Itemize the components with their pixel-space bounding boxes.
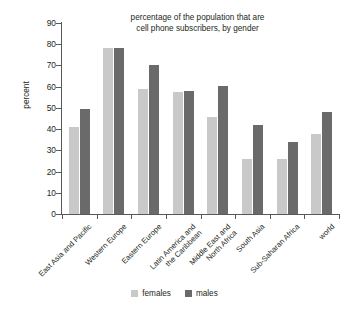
y-axis-tick-label: 30 bbox=[10, 145, 56, 155]
y-axis-tick bbox=[56, 214, 61, 215]
y-axis-tick bbox=[56, 65, 61, 66]
y-axis-tick-label: 90 bbox=[10, 18, 56, 28]
y-axis-tick-label: 70 bbox=[10, 60, 56, 70]
bar-females-7 bbox=[311, 134, 321, 214]
chart-legend: females males bbox=[0, 289, 349, 298]
y-axis-tick-label: 60 bbox=[10, 82, 56, 92]
x-axis-tick bbox=[62, 215, 63, 219]
bar-females-0 bbox=[69, 127, 79, 214]
x-axis-tick bbox=[304, 215, 305, 219]
bar-males-6 bbox=[288, 142, 298, 214]
legend-swatch-males-icon bbox=[185, 290, 192, 297]
legend-item-males[interactable]: males bbox=[185, 289, 218, 298]
bar-females-6 bbox=[277, 159, 287, 214]
y-axis-tick bbox=[56, 172, 61, 173]
y-axis-tick bbox=[56, 87, 61, 88]
x-axis-tick bbox=[235, 215, 236, 219]
bar-females-5 bbox=[242, 159, 252, 214]
bar-females-3 bbox=[173, 92, 183, 214]
bar-males-7 bbox=[322, 112, 332, 214]
plot-area bbox=[62, 23, 339, 214]
bar-males-4 bbox=[218, 86, 228, 214]
y-axis-tick-label: 10 bbox=[10, 188, 56, 198]
x-axis-tick bbox=[201, 215, 202, 219]
x-axis-tick bbox=[270, 215, 271, 219]
bar-females-4 bbox=[207, 117, 217, 214]
y-axis-tick-label: 50 bbox=[10, 103, 56, 113]
x-axis-tick bbox=[97, 215, 98, 219]
y-axis-tick bbox=[56, 44, 61, 45]
y-axis-tick-label: 40 bbox=[10, 124, 56, 134]
x-axis-tick bbox=[339, 215, 340, 219]
y-axis-tick bbox=[56, 129, 61, 130]
y-axis-tick-label: 0 bbox=[10, 209, 56, 219]
y-axis-tick-label: 80 bbox=[10, 39, 56, 49]
y-axis-tick-label: 20 bbox=[10, 167, 56, 177]
bar-females-2 bbox=[138, 89, 148, 214]
bar-males-1 bbox=[114, 48, 124, 214]
bar-chart: percentage of the population that are ce… bbox=[0, 0, 349, 311]
x-axis-tick bbox=[166, 215, 167, 219]
bar-males-2 bbox=[149, 65, 159, 214]
y-axis-tick bbox=[56, 23, 61, 24]
y-axis-tick bbox=[56, 150, 61, 151]
legend-item-females[interactable]: females bbox=[131, 289, 171, 298]
x-axis-tick bbox=[131, 215, 132, 219]
bar-males-0 bbox=[80, 109, 90, 214]
y-axis-tick bbox=[56, 108, 61, 109]
legend-label-females: females bbox=[142, 289, 171, 298]
legend-swatch-females-icon bbox=[131, 290, 138, 297]
y-axis-label: percent bbox=[22, 65, 31, 125]
bar-males-3 bbox=[184, 91, 194, 214]
y-axis-tick bbox=[56, 193, 61, 194]
legend-label-males: males bbox=[196, 289, 218, 298]
bar-males-5 bbox=[253, 125, 263, 214]
bar-females-1 bbox=[103, 48, 113, 214]
